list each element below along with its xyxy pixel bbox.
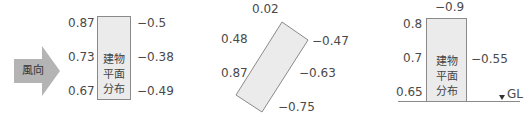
p2-right-middle: −0.63 [299,66,336,80]
p1-leeward-top: −0.5 [137,16,166,30]
p2-left-lower: 0.87 [221,66,248,80]
p3-leeward: −0.55 [471,52,508,66]
p3-windward-top: 0.8 [403,17,422,31]
p1-windward-top: 0.87 [68,16,95,30]
building-plan-box-1: 建物 平面 分布 [97,16,131,100]
p1-leeward-bot: −0.49 [137,84,174,98]
p1-leeward-mid: −0.38 [137,50,174,64]
p3-top: −0.9 [435,0,464,14]
p2-top: 0.02 [252,2,279,16]
p1-windward-mid: 0.73 [68,50,95,64]
p2-bottom: −0.75 [278,100,315,114]
building-label-line1: 建物 [98,52,130,67]
p2-left-upper: 0.48 [221,32,248,46]
p2-right-upper: −0.47 [312,34,349,48]
building-label-line2: 平面 [427,69,466,84]
p3-windward-bot: 0.65 [396,85,423,99]
gl-marker-icon [499,95,505,100]
building-label-line3: 分布 [427,84,466,99]
p3-windward-mid: 0.7 [403,51,422,65]
building-label-line1: 建物 [427,54,466,69]
building-elevation-box: 建物 平面 分布 [426,18,467,102]
p1-windward-bot: 0.67 [68,84,95,98]
ground-level-label: GL [507,87,523,101]
building-label-line3: 分布 [98,82,130,97]
wind-direction-label: 風向 [22,64,44,78]
building-label-line2: 平面 [98,67,130,82]
